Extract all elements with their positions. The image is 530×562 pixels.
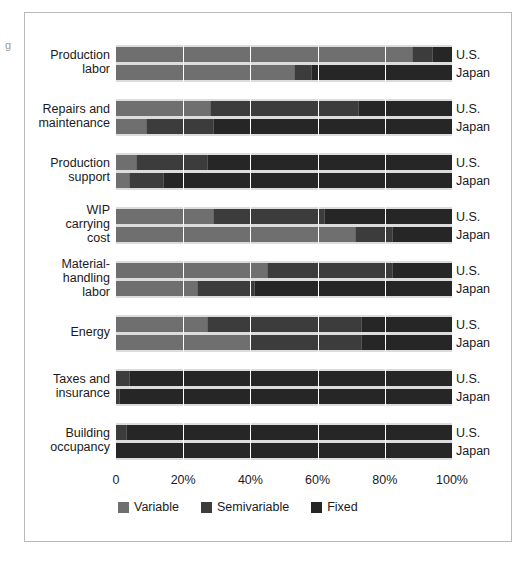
- stacked-bar[interactable]: [116, 281, 452, 296]
- legend-item-semivariable[interactable]: Semivariable: [201, 500, 289, 514]
- gridline: [452, 36, 453, 468]
- bar-segment-fixed[interactable]: [254, 281, 452, 296]
- subgroup-label-japan: Japan: [456, 444, 490, 459]
- bar-segment-variable[interactable]: [116, 173, 129, 188]
- stacked-bar[interactable]: [116, 119, 452, 134]
- stacked-bar[interactable]: [116, 335, 452, 350]
- bar-segment-variable[interactable]: [116, 317, 207, 332]
- bar-segment-variable[interactable]: [116, 119, 146, 134]
- gridline: [183, 36, 184, 468]
- stacked-bar[interactable]: [116, 263, 452, 278]
- legend-label: Semivariable: [217, 500, 289, 514]
- legend: VariableSemivariableFixed: [118, 499, 358, 515]
- bar-segment-semivariable[interactable]: [129, 173, 163, 188]
- bar-segment-variable[interactable]: [116, 227, 355, 242]
- subgroup-label-us: U.S.: [456, 48, 480, 63]
- bar-segment-variable[interactable]: [116, 47, 412, 62]
- subgroup-label-japan: Japan: [456, 336, 490, 351]
- bar-segment-fixed[interactable]: [324, 209, 452, 224]
- stacked-bar[interactable]: [116, 443, 452, 458]
- bar-segment-semivariable[interactable]: [210, 101, 358, 116]
- bar-segment-semivariable[interactable]: [355, 227, 392, 242]
- legend-label: Variable: [134, 500, 179, 514]
- x-tick-label: 80%: [372, 473, 397, 488]
- category-label: WIP carrying cost: [6, 203, 110, 245]
- subgroup-label-us: U.S.: [456, 426, 480, 441]
- subgroup-label-japan: Japan: [456, 228, 490, 243]
- legend-item-variable[interactable]: Variable: [118, 500, 179, 514]
- bar-segment-fixed[interactable]: [361, 317, 452, 332]
- bar-segment-semivariable[interactable]: [250, 335, 361, 350]
- category-axis-labels: Production laborRepairs and maintenanceP…: [0, 36, 110, 468]
- stacked-bar[interactable]: [116, 65, 452, 80]
- bar-segment-fixed[interactable]: [311, 65, 452, 80]
- bar-segment-fixed[interactable]: [116, 443, 452, 458]
- x-tick-label: 0: [113, 473, 120, 488]
- category-label: Repairs and maintenance: [6, 102, 110, 130]
- stacked-bar[interactable]: [116, 155, 452, 170]
- bar-segment-semivariable[interactable]: [294, 65, 311, 80]
- stacked-bar[interactable]: [116, 389, 452, 404]
- gridline: [385, 36, 386, 468]
- subgroup-label-japan: Japan: [456, 390, 490, 405]
- x-axis: 020%40%60%80%100%: [116, 470, 452, 492]
- bar-segment-semivariable[interactable]: [267, 263, 391, 278]
- bar-segment-semivariable[interactable]: [116, 425, 126, 440]
- bar-segment-variable[interactable]: [116, 155, 136, 170]
- category-label: Production labor: [6, 48, 110, 76]
- subgroup-label-us: U.S.: [456, 264, 480, 279]
- stacked-bar[interactable]: [116, 425, 452, 440]
- bar-segment-variable[interactable]: [116, 263, 267, 278]
- stacked-bar[interactable]: [116, 227, 452, 242]
- legend-label: Fixed: [327, 500, 358, 514]
- subgroup-label-us: U.S.: [456, 372, 480, 387]
- x-tick-label: 60%: [305, 473, 330, 488]
- bar-segment-variable[interactable]: [116, 281, 197, 296]
- bar-segment-fixed[interactable]: [126, 425, 452, 440]
- bar-segment-fixed[interactable]: [207, 155, 452, 170]
- gridline: [250, 36, 251, 468]
- bar-segment-semivariable[interactable]: [412, 47, 432, 62]
- legend-swatch-icon: [118, 502, 129, 513]
- bar-segment-fixed[interactable]: [129, 371, 452, 386]
- stacked-bar[interactable]: [116, 47, 452, 62]
- bar-segment-semivariable[interactable]: [116, 371, 129, 386]
- bar-segment-fixed[interactable]: [392, 227, 452, 242]
- bar-segment-semivariable[interactable]: [197, 281, 254, 296]
- bar-segment-fixed[interactable]: [392, 263, 452, 278]
- subgroup-label-japan: Japan: [456, 120, 490, 135]
- stacked-bar[interactable]: [116, 317, 452, 332]
- bar-segment-fixed[interactable]: [361, 335, 452, 350]
- bar-segment-semivariable[interactable]: [136, 155, 207, 170]
- x-tick-label: 20%: [171, 473, 196, 488]
- bar-segment-variable[interactable]: [116, 65, 294, 80]
- subgroup-label-us: U.S.: [456, 156, 480, 171]
- stacked-bar[interactable]: [116, 101, 452, 116]
- bar-segment-fixed[interactable]: [119, 389, 452, 404]
- x-tick-label: 40%: [238, 473, 263, 488]
- stacked-bar[interactable]: [116, 371, 452, 386]
- bar-segment-fixed[interactable]: [213, 119, 452, 134]
- bar-segment-semivariable[interactable]: [213, 209, 324, 224]
- bar-segment-semivariable[interactable]: [146, 119, 213, 134]
- bar-segment-semivariable[interactable]: [207, 317, 362, 332]
- legend-swatch-icon: [201, 502, 212, 513]
- subgroup-labels: U.S.JapanU.S.JapanU.S.JapanU.S.JapanU.S.…: [456, 36, 520, 468]
- bar-segment-variable[interactable]: [116, 101, 210, 116]
- plot-area: [116, 36, 452, 468]
- subgroup-label-japan: Japan: [456, 174, 490, 189]
- bar-segment-fixed[interactable]: [163, 173, 452, 188]
- gridline: [318, 36, 319, 468]
- stacked-bar[interactable]: [116, 209, 452, 224]
- bar-segment-fixed[interactable]: [432, 47, 452, 62]
- category-label: Material- handling labor: [6, 257, 110, 299]
- bar-segment-variable[interactable]: [116, 209, 213, 224]
- legend-item-fixed[interactable]: Fixed: [311, 500, 358, 514]
- stacked-bar[interactable]: [116, 173, 452, 188]
- category-label: Energy: [6, 325, 110, 339]
- bar-segment-fixed[interactable]: [358, 101, 452, 116]
- category-label: Building occupancy: [6, 426, 110, 454]
- subgroup-label-japan: Japan: [456, 282, 490, 297]
- legend-swatch-icon: [311, 502, 322, 513]
- chart-page: g Production laborRepairs and maintenanc…: [0, 0, 530, 562]
